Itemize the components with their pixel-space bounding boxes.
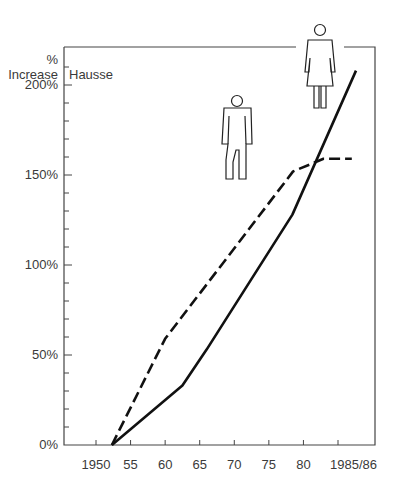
x-tick-label: 60 bbox=[158, 457, 172, 472]
series-women-line bbox=[112, 71, 356, 445]
y-axis-unit: % bbox=[46, 52, 58, 67]
y-axis-label: Increase bbox=[8, 67, 58, 82]
x-tick-label: 80 bbox=[296, 457, 310, 472]
x-tick-label: 75 bbox=[262, 457, 276, 472]
y-tick-label: 0% bbox=[39, 437, 58, 452]
x-tick-label: 1985/86 bbox=[330, 457, 377, 472]
woman-figure-icon bbox=[305, 25, 335, 109]
series-men-line bbox=[112, 159, 352, 445]
y-axis: 0%50%100%150%200% bbox=[25, 67, 72, 452]
man-figure-icon bbox=[222, 96, 252, 180]
y-tick-label: 50% bbox=[32, 347, 58, 362]
x-tick-label: 55 bbox=[123, 457, 137, 472]
y-tick-label: 100% bbox=[25, 257, 59, 272]
y-axis-label-french: Hausse bbox=[69, 67, 113, 82]
chart-frame bbox=[64, 47, 375, 445]
x-tick-label: 1950 bbox=[82, 457, 111, 472]
axis-frame bbox=[64, 47, 375, 445]
x-tick-label: 65 bbox=[192, 457, 206, 472]
y-tick-label: 150% bbox=[25, 167, 59, 182]
series-lines bbox=[112, 71, 356, 445]
line-chart: 0%50%100%150%200% 19505560657075801985/8… bbox=[0, 0, 394, 495]
x-tick-label: 70 bbox=[227, 457, 241, 472]
